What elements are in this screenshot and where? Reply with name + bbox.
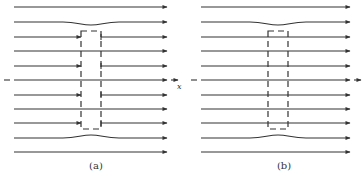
deflected-streamline (14, 135, 167, 138)
panel-a (4, 7, 178, 152)
deflected-streamline (201, 135, 350, 138)
deflected-streamline (14, 22, 167, 25)
panel-b (191, 7, 361, 152)
panel-b-caption: (b) (264, 160, 304, 171)
x-axis-label: x (177, 82, 182, 91)
deflected-streamline (201, 22, 350, 25)
panel-a-caption: (a) (76, 160, 116, 171)
